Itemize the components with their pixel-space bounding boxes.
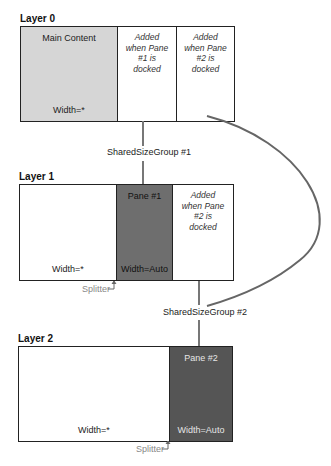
layer-1-splitter-label: Splitter [82,284,110,294]
shared-size-group-2-label: SharedSizeGroup #2 [161,307,249,317]
layer-1-pane2-placeholder-label: Added when Pane #2 is docked [173,190,233,232]
pane1-label: Pane #1 [117,191,172,202]
pane1-placeholder-label: Added when Pane #1 is docked [118,32,176,74]
pane2-label: Pane #2 [170,353,232,364]
pane2-width: Width=Auto [170,425,232,435]
layer-1-pane1: Pane #1 Width=Auto [116,185,172,280]
layer-1-title: Layer 1 [19,171,54,182]
layer-2-main-content: Width=* [19,347,169,441]
layer-0-box: Main Content Width=* Added when Pane #1 … [20,26,235,122]
layer-1-main-content: Width=* [20,185,116,280]
layer-1-pane2-placeholder: Added when Pane #2 is docked [172,185,233,280]
pane1-width: Width=Auto [117,264,172,274]
main-content-label: Main Content [21,33,117,44]
layer-1-box: Width=* Pane #1 Width=Auto Added when Pa… [19,184,234,281]
layer-2-box: Width=* Pane #2 Width=Auto [18,346,233,442]
layer-0-title: Layer 0 [20,13,55,24]
layer-0-main-content: Main Content Width=* [21,27,117,121]
layer-1-main-width: Width=* [20,264,116,274]
shared-size-group-1-label: SharedSizeGroup #1 [105,147,193,157]
main-content-width: Width=* [21,105,117,115]
layer-2-title: Layer 2 [18,333,53,344]
layer-2-main-width: Width=* [19,425,169,435]
layer-2-splitter-label: Splitter [136,444,164,454]
layer-2-pane2: Pane #2 Width=Auto [169,347,232,441]
layer-0-pane2-placeholder: Added when Pane #2 is docked [176,27,234,121]
layer-0-pane1-placeholder: Added when Pane #1 is docked [117,27,176,121]
pane2-placeholder-label: Added when Pane #2 is docked [177,32,234,74]
